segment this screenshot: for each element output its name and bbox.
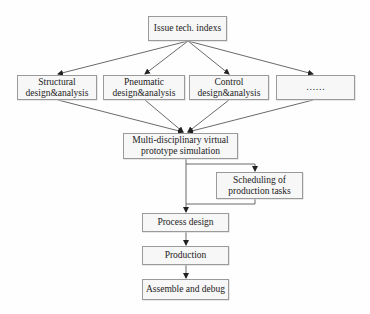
node-label: Structuraldesign&analysis <box>26 77 89 99</box>
node-label: …… <box>306 82 325 93</box>
node-label: Controldesign&analysis <box>198 77 261 99</box>
node-label-line1: Scheduling of <box>233 175 286 185</box>
node-structural-design: Structuraldesign&analysis <box>17 75 97 100</box>
node-pneumatic-design: Pneumaticdesign&analysis <box>103 75 185 100</box>
node-production: Production <box>142 246 229 265</box>
node-label-line1: Control <box>214 77 243 87</box>
node-more-disciplines: …… <box>276 75 355 100</box>
node-multi-disciplinary-simulation: Multi-disciplinary virtualprototype simu… <box>123 133 238 159</box>
node-issue-tech-indexs: Issue tech. indexs <box>148 16 227 41</box>
node-label-line1: Multi-disciplinary virtual <box>132 135 228 145</box>
node-label-line1: Pneumatic <box>124 77 164 87</box>
node-label-line2: prototype simulation <box>141 146 220 156</box>
node-label-line1: Structural <box>38 77 75 87</box>
node-label: Process design <box>157 217 213 228</box>
node-label: Assemble and debug <box>146 284 225 295</box>
node-label: Production <box>165 250 207 261</box>
node-label-line2: production tasks <box>228 186 291 196</box>
node-label: Pneumaticdesign&analysis <box>113 77 176 99</box>
node-label-line2: design&analysis <box>26 88 89 98</box>
flowchart-canvas: Issue tech. indexs Structuraldesign&anal… <box>0 0 370 314</box>
node-label-line2: design&analysis <box>113 88 176 98</box>
node-label: Issue tech. indexs <box>154 23 221 34</box>
node-control-design: Controldesign&analysis <box>189 75 269 100</box>
node-process-design: Process design <box>142 213 229 232</box>
node-label-line2: design&analysis <box>198 88 261 98</box>
node-scheduling-production-tasks: Scheduling ofproduction tasks <box>216 172 303 199</box>
node-label: Multi-disciplinary virtualprototype simu… <box>132 135 228 157</box>
node-assemble-and-debug: Assemble and debug <box>142 279 229 300</box>
node-label: Scheduling ofproduction tasks <box>228 175 291 197</box>
